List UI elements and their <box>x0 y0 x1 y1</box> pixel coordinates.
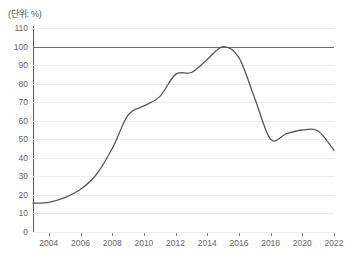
x-tick-mark <box>271 233 272 236</box>
y-tick-label: 30 <box>2 171 28 181</box>
y-tick-label: 10 <box>2 208 28 218</box>
y-tick-label: 50 <box>2 134 28 144</box>
y-tick-label: 60 <box>2 116 28 126</box>
x-tick-label: 2022 <box>314 238 348 248</box>
x-tick-mark <box>176 233 177 236</box>
y-tick-label: 80 <box>2 79 28 89</box>
x-tick-mark <box>207 233 208 236</box>
y-tick-label: 20 <box>2 190 28 200</box>
line-series-path <box>33 47 334 204</box>
x-tick-mark <box>49 233 50 236</box>
y-tick-label: 100 <box>2 42 28 52</box>
x-tick-mark <box>239 233 240 236</box>
y-tick-label: 40 <box>2 153 28 163</box>
y-tick-label: 110 <box>2 23 28 33</box>
x-tick-mark <box>112 233 113 236</box>
x-tick-mark <box>81 233 82 236</box>
y-tick-label: 70 <box>2 97 28 107</box>
x-tick-mark <box>302 233 303 236</box>
x-tick-mark <box>144 233 145 236</box>
x-tick-mark <box>334 233 335 236</box>
y-tick-label: 90 <box>2 60 28 70</box>
y-tick-label: 0 <box>2 227 28 237</box>
